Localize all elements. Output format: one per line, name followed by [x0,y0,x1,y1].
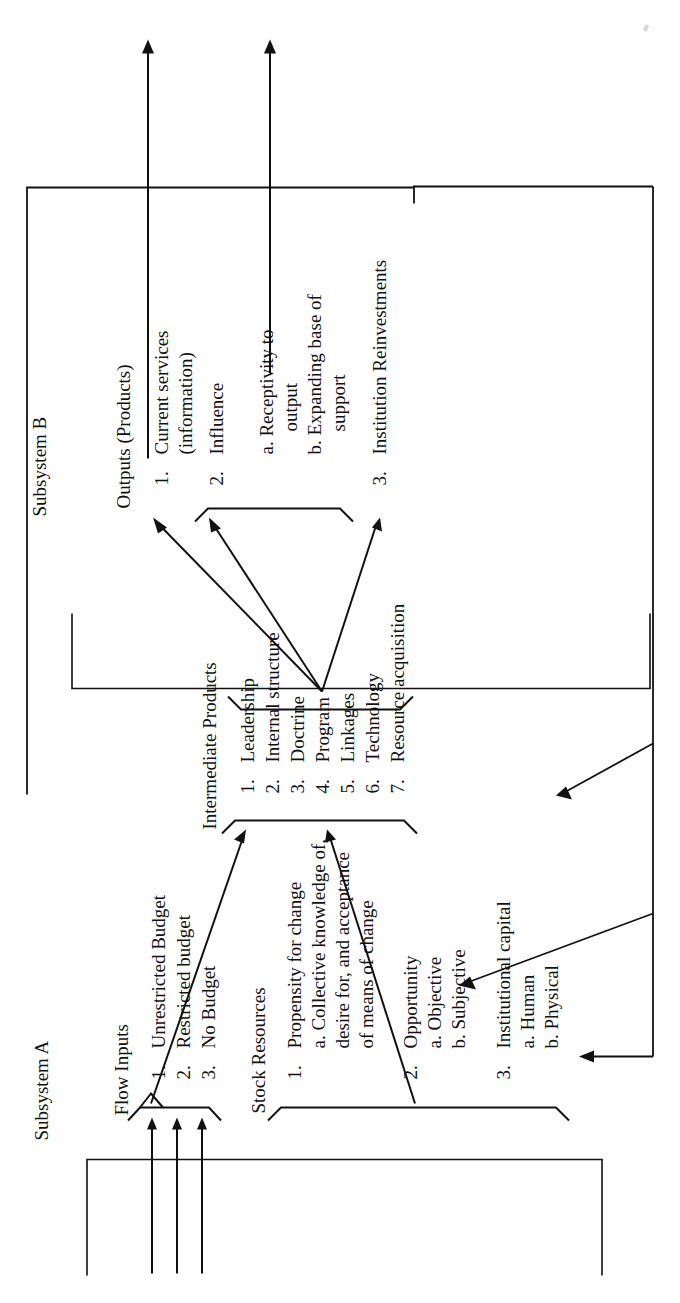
feedback-final [0,0,680,1303]
diagram-canvas: Subsystem A Subsystem B Flow Inputs Stoc… [0,0,680,1303]
feedback-arrow-stock-2 [459,913,653,989]
feedback-arrow-stock-3 [556,743,653,799]
feedback-arrow-stock-1 [579,1050,653,1062]
